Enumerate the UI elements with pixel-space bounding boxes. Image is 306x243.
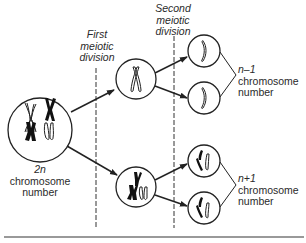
bracket-n-minus-1: [220, 52, 236, 97]
gamete-n-plus-1-b: [188, 192, 220, 224]
n-plus-1-label: n+1 chromosome number: [238, 173, 299, 208]
gamete-n-plus-1-a: [188, 145, 220, 177]
second-division-label: Second meiotic division: [151, 3, 195, 38]
bracket-n-plus-1: [220, 162, 236, 207]
lower-middle-cell: [116, 167, 156, 207]
parent-ploidy-label: 2n chromosome number: [0, 164, 80, 199]
first-division-label: First meiotic division: [75, 29, 119, 64]
arrow-to-gamete-3: [155, 164, 187, 180]
gamete-n-minus-1-a: [188, 35, 220, 67]
arrow-to-gamete-1: [155, 57, 187, 73]
n-minus-1-label: n–1 chromosome number: [238, 64, 299, 99]
arrow-to-gamete-2: [155, 86, 187, 98]
parent-cell: [8, 98, 72, 162]
upper-middle-cell: [116, 59, 156, 99]
arrow-to-gamete-4: [155, 195, 187, 206]
arrow-to-upper-middle: [71, 90, 114, 112]
gamete-n-minus-1-b: [188, 82, 220, 114]
